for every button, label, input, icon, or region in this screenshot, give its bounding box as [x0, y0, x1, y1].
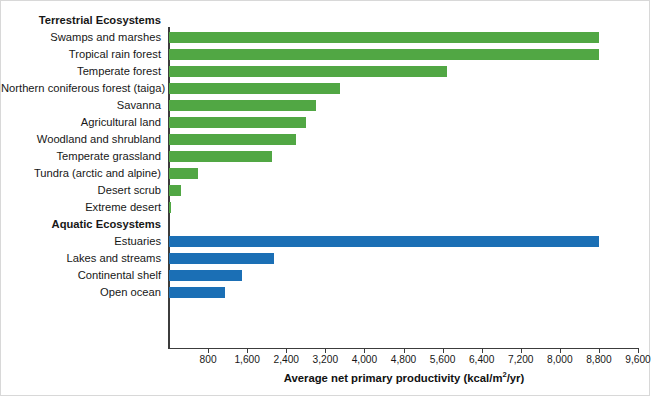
bar [169, 236, 599, 247]
bar-row: Extreme desert [1, 199, 651, 216]
bar-row: Desert scrub [1, 182, 651, 199]
bar-row-label: Tundra (arctic and alpine) [1, 165, 161, 182]
bar-row: Woodland and shrubland [1, 131, 651, 148]
x-axis-tick [325, 348, 326, 353]
bar-row: Lakes and streams [1, 250, 651, 267]
bar-row-label: Temperate grassland [1, 148, 161, 165]
bar-row-label: Tropical rain forest [1, 46, 161, 63]
bar [169, 32, 599, 43]
x-axis-title-before: Average net primary productivity (kcal/m [284, 372, 503, 384]
x-axis-title-after: /yr) [507, 372, 525, 384]
group-header-label: Aquatic Ecosystems [1, 216, 161, 233]
bar-row-label: Open ocean [1, 284, 161, 301]
bar-row: Temperate forest [1, 63, 651, 80]
bar-row: Tundra (arctic and alpine) [1, 165, 651, 182]
bar [169, 151, 272, 162]
bar-row: Northern coniferous forest (taiga) [1, 80, 651, 97]
x-axis-tick [247, 348, 248, 353]
group-header-row: Aquatic Ecosystems [1, 216, 651, 233]
x-axis-tick [482, 348, 483, 353]
bar [169, 287, 225, 298]
x-axis-tick [208, 348, 209, 353]
x-axis-tick [638, 348, 639, 353]
bar-row-label: Savanna [1, 97, 161, 114]
bar-row-label: Continental shelf [1, 267, 161, 284]
bar [169, 202, 171, 213]
bar [169, 168, 198, 179]
bar [169, 253, 274, 264]
bar [169, 134, 296, 145]
bar-row: Continental shelf [1, 267, 651, 284]
bar-row-label: Swamps and marshes [1, 29, 161, 46]
bar-row: Temperate grassland [1, 148, 651, 165]
bar [169, 83, 340, 94]
x-axis-tick [560, 348, 561, 353]
group-header-row: Terrestrial Ecosystems [1, 12, 651, 29]
bar-row-label: Northern coniferous forest (taiga) [1, 80, 161, 97]
plot-area: Terrestrial EcosystemsSwamps and marshes… [1, 1, 651, 396]
bar [169, 49, 599, 60]
bar-row-label: Extreme desert [1, 199, 161, 216]
bar-row-label: Estuaries [1, 233, 161, 250]
bar [169, 270, 242, 281]
bar [169, 185, 181, 196]
x-axis-tick [286, 348, 287, 353]
x-axis-tick [443, 348, 444, 353]
bar-row: Savanna [1, 97, 651, 114]
x-axis-title: Average net primary productivity (kcal/m… [169, 372, 639, 384]
x-axis-tick [364, 348, 365, 353]
bar-row-label: Lakes and streams [1, 250, 161, 267]
bar-row-label: Desert scrub [1, 182, 161, 199]
bar-row: Swamps and marshes [1, 29, 651, 46]
group-header-label: Terrestrial Ecosystems [1, 12, 161, 29]
bar-row-label: Temperate forest [1, 63, 161, 80]
x-axis-tick [599, 348, 600, 353]
x-axis-tick [404, 348, 405, 353]
bar [169, 66, 447, 77]
bar [169, 100, 316, 111]
bar-row: Estuaries [1, 233, 651, 250]
x-axis-tick [521, 348, 522, 353]
bar-row-label: Woodland and shrubland [1, 131, 161, 148]
bar-row-label: Agricultural land [1, 114, 161, 131]
bar [169, 117, 306, 128]
bar-row: Tropical rain forest [1, 46, 651, 63]
x-axis-tick-label: 9,600 [615, 354, 655, 365]
bar-row: Open ocean [1, 284, 651, 301]
bar-row: Agricultural land [1, 114, 651, 131]
